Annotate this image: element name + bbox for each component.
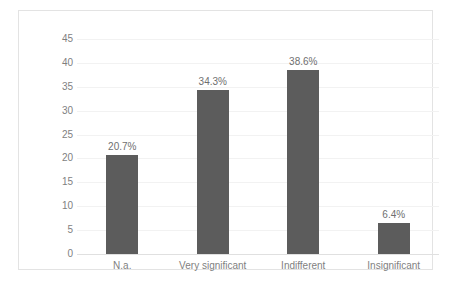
x-axis: N.a.Very significantIndifferentInsignifi… [77,260,439,276]
x-axis-tick-label: N.a. [113,260,131,272]
bar-value-label: 20.7% [108,141,136,152]
bar[interactable] [197,90,229,254]
plot-area: 20.7%34.3%38.6%6.4% [77,39,439,254]
y-axis-tick-label: 40 [39,58,73,68]
x-axis-tick-label: Insignificant [367,260,420,272]
y-axis-tick-label: 0 [39,249,73,259]
y-axis-tick-label: 30 [39,106,73,116]
x-axis-tick-label: Indifferent [281,260,325,272]
y-axis-tick-label: 10 [39,201,73,211]
bar-group: 34.3% [168,39,259,254]
bar-group: 6.4% [349,39,440,254]
chart-frame: 051015202530354045 20.7%34.3%38.6%6.4% N… [18,10,433,270]
x-axis-tick-label: Very significant [179,260,246,272]
bar[interactable] [378,223,410,254]
bar-group: 20.7% [77,39,168,254]
bar-value-label: 6.4% [382,209,405,220]
bar-chart: 051015202530354045 20.7%34.3%38.6%6.4% N… [0,0,451,285]
bar-value-label: 38.6% [289,56,317,67]
y-axis-tick-label: 15 [39,177,73,187]
bar[interactable] [287,70,319,254]
y-axis-tick-label: 35 [39,82,73,92]
bar-group: 38.6% [258,39,349,254]
y-axis-tick-label: 20 [39,153,73,163]
y-axis-tick-label: 5 [39,225,73,235]
y-axis: 051015202530354045 [37,39,73,254]
y-axis-tick-label: 45 [39,34,73,44]
gridline [77,254,439,255]
bar-value-label: 34.3% [199,76,227,87]
y-axis-tick-label: 25 [39,130,73,140]
bar[interactable] [106,155,138,254]
